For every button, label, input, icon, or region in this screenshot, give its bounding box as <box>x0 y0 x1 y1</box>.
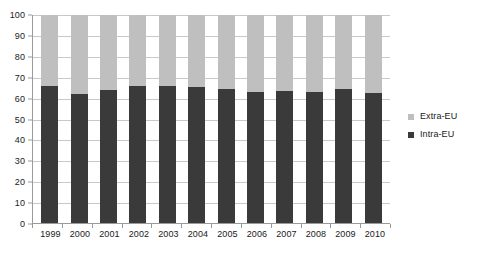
bar-group <box>276 15 293 223</box>
x-tick-mark <box>62 224 63 228</box>
y-tick-label: 100 <box>10 11 25 20</box>
x-tick-label: 2002 <box>129 230 146 239</box>
bar-segment-intra-eu <box>159 86 176 223</box>
x-tick-mark <box>271 224 272 228</box>
x-tick-marks <box>32 224 390 228</box>
bar-segment-extra-eu <box>276 15 293 91</box>
y-axis: 0102030405060708090100 <box>0 0 32 255</box>
bar-group <box>41 15 58 223</box>
x-tick-mark <box>330 224 331 228</box>
bar-segment-extra-eu <box>188 15 205 87</box>
legend-label: Extra-EU <box>420 112 457 121</box>
y-tick-label: 20 <box>15 178 25 187</box>
x-tick-mark <box>301 224 302 228</box>
y-tick-label: 0 <box>20 220 25 229</box>
bar-segment-extra-eu <box>335 15 352 89</box>
legend-item-intra-eu[interactable]: Intra-EU <box>408 130 457 139</box>
bar-segment-extra-eu <box>306 15 323 92</box>
x-tick-mark <box>122 224 123 228</box>
bar-segment-intra-eu <box>41 86 58 223</box>
x-tick-mark <box>390 224 391 228</box>
bar-segment-intra-eu <box>306 92 323 223</box>
legend-swatch-icon <box>408 132 414 138</box>
legend-item-extra-eu[interactable]: Extra-EU <box>408 112 457 121</box>
chart-legend: Extra-EUIntra-EU <box>408 112 457 139</box>
bar-segment-intra-eu <box>129 86 146 223</box>
x-tick-label: 2009 <box>335 230 352 239</box>
bar-segment-extra-eu <box>41 15 58 86</box>
x-tick-label: 2003 <box>158 230 175 239</box>
bar-segment-extra-eu <box>247 15 264 92</box>
x-tick-label: 2007 <box>276 230 293 239</box>
bar-group <box>188 15 205 223</box>
x-tick-mark <box>360 224 361 228</box>
x-tick-label: 2001 <box>99 230 116 239</box>
bar-segment-extra-eu <box>71 15 88 94</box>
bar-group <box>365 15 382 223</box>
x-tick-labels: 1999200020012002200320042005200620072008… <box>32 230 390 239</box>
bar-group <box>100 15 117 223</box>
x-tick-label: 2005 <box>217 230 234 239</box>
x-tick-label: 2004 <box>188 230 205 239</box>
bar-segment-extra-eu <box>159 15 176 86</box>
bar-segment-intra-eu <box>365 93 382 223</box>
bar-group <box>159 15 176 223</box>
y-tick-label: 50 <box>15 115 25 124</box>
x-tick-mark <box>32 224 33 228</box>
bar-segment-extra-eu <box>365 15 382 93</box>
x-tick-label: 2006 <box>247 230 264 239</box>
x-tick-mark <box>151 224 152 228</box>
bar-segment-extra-eu <box>218 15 235 89</box>
y-tick-label: 10 <box>15 199 25 208</box>
y-tick-label: 40 <box>15 136 25 145</box>
x-tick-label: 2008 <box>306 230 323 239</box>
x-tick-mark <box>181 224 182 228</box>
legend-label: Intra-EU <box>420 130 454 139</box>
bar-segment-extra-eu <box>129 15 146 86</box>
bar-group <box>335 15 352 223</box>
bar-series-container <box>33 15 390 223</box>
bar-segment-intra-eu <box>100 90 117 223</box>
bar-segment-intra-eu <box>276 91 293 223</box>
y-tick-label: 30 <box>15 157 25 166</box>
bar-segment-extra-eu <box>100 15 117 90</box>
x-tick-label: 2010 <box>365 230 382 239</box>
bar-group <box>306 15 323 223</box>
stacked-bar-chart: 0102030405060708090100 19992000200120022… <box>0 0 499 255</box>
bar-group <box>129 15 146 223</box>
bar-segment-intra-eu <box>247 92 264 223</box>
bar-group <box>71 15 88 223</box>
x-tick-label: 2000 <box>70 230 87 239</box>
bar-segment-intra-eu <box>188 87 205 223</box>
x-tick-mark <box>92 224 93 228</box>
y-tick-label: 70 <box>15 73 25 82</box>
y-tick-label: 90 <box>15 31 25 40</box>
x-tick-mark <box>241 224 242 228</box>
plot-area <box>32 15 390 224</box>
bar-segment-intra-eu <box>218 89 235 223</box>
x-axis: 1999200020012002200320042005200620072008… <box>32 224 390 252</box>
bar-segment-intra-eu <box>335 89 352 223</box>
bar-group <box>218 15 235 223</box>
y-tick-label: 60 <box>15 94 25 103</box>
x-tick-label: 1999 <box>40 230 57 239</box>
y-tick-label: 80 <box>15 52 25 61</box>
x-tick-mark <box>211 224 212 228</box>
legend-swatch-icon <box>408 114 414 120</box>
bar-group <box>247 15 264 223</box>
bar-segment-intra-eu <box>71 94 88 223</box>
